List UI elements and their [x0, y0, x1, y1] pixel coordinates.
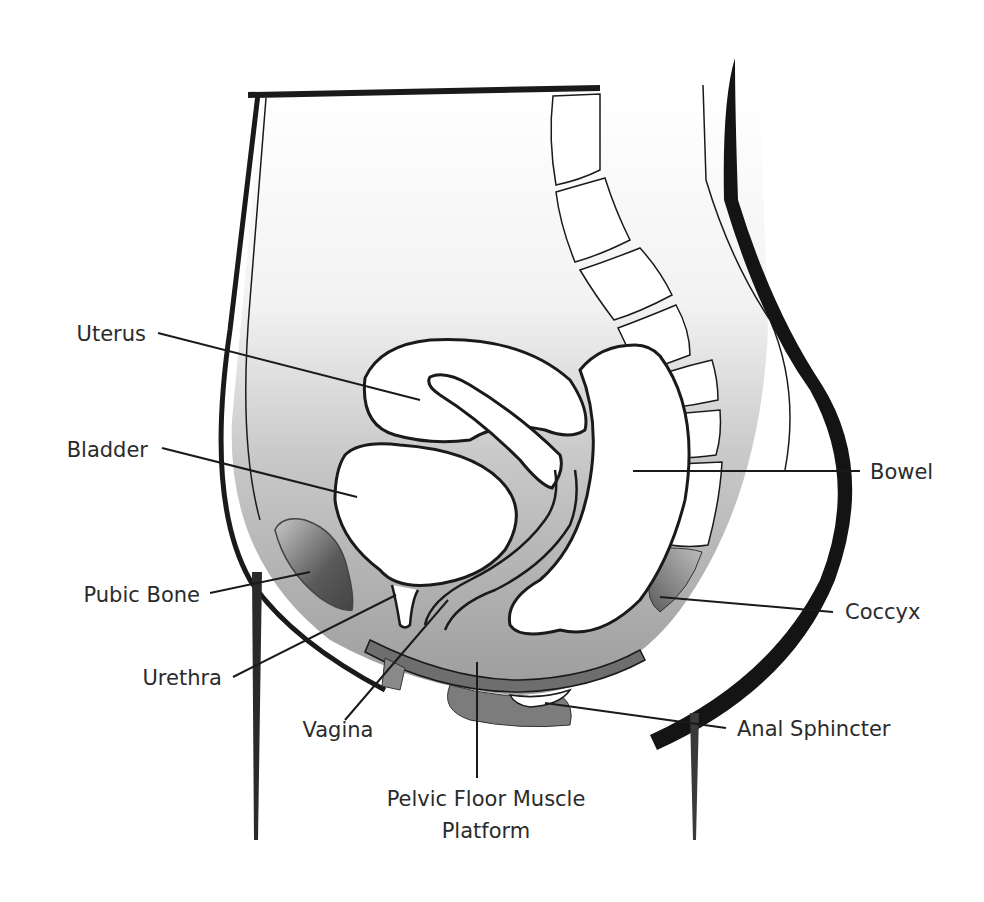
label-urethra: Urethra — [142, 666, 222, 690]
waist-top-edge — [248, 88, 600, 95]
label-bowel: Bowel — [870, 460, 933, 484]
back-leg-line — [690, 713, 699, 840]
label-coccyx: Coccyx — [845, 600, 920, 624]
label-pubic-bone: Pubic Bone — [84, 583, 200, 607]
label-uterus: Uterus — [77, 322, 146, 346]
pelvic-anatomy-diagram: Uterus Bladder Pubic Bone Urethra Vagina… — [0, 0, 984, 902]
front-leg-line — [252, 572, 262, 840]
label-vagina: Vagina — [303, 718, 374, 742]
label-pelvic-floor-line1: Pelvic Floor Muscle — [387, 787, 586, 811]
label-pelvic-floor-line2: Platform — [442, 819, 531, 843]
label-bladder: Bladder — [67, 438, 149, 462]
label-anal-sphincter: Anal Sphincter — [737, 717, 891, 741]
